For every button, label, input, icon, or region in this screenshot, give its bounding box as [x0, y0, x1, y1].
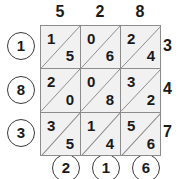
- right-label-row-2: 7: [163, 122, 185, 142]
- lattice-cell-r0c2-tens: 2: [127, 31, 135, 46]
- lattice-cell-r1c2: 3 2: [121, 69, 161, 112]
- lattice-cell-r0c2: 2 4: [121, 26, 161, 69]
- lattice-grid: 1 5 0 6 2 4 2 0: [40, 25, 161, 156]
- lattice-cell-r2c2: 5 6: [121, 113, 161, 156]
- lattice-multiplication-figure: 5 2 8 1 8 3 3 4 7 2 1 6 1 5 0 6: [0, 0, 193, 179]
- lattice-cell-r2c1: 1 4: [81, 113, 121, 156]
- lattice-cell-r1c1: 0 8: [81, 69, 121, 112]
- top-label-col-0: 5: [40, 2, 80, 22]
- right-label-row-1: 4: [163, 79, 185, 99]
- bottom-circle-col-1: 1: [92, 154, 120, 179]
- bottom-circle-col-0: 2: [52, 154, 80, 179]
- lattice-cell-r1c0: 2 0: [41, 69, 81, 112]
- lattice-cell-r2c2-ones: 6: [147, 136, 155, 151]
- lattice-cell-r2c0: 3 5: [41, 113, 81, 156]
- lattice-cell-r2c1-ones: 4: [106, 136, 114, 151]
- lattice-cell-r1c1-ones: 8: [106, 92, 114, 107]
- lattice-cell-r0c2-ones: 4: [147, 48, 155, 63]
- lattice-cell-r0c1-tens: 0: [87, 31, 95, 46]
- left-circle-row-0: 1: [7, 32, 35, 60]
- lattice-cell-r2c0-tens: 3: [47, 118, 55, 133]
- lattice-cell-r2c2-tens: 5: [127, 118, 135, 133]
- left-circle-row-2: 3: [7, 119, 35, 147]
- lattice-cell-r0c1-ones: 6: [106, 48, 114, 63]
- lattice-cell-r0c0: 1 5: [41, 26, 81, 69]
- left-circle-row-1: 8: [7, 76, 35, 104]
- top-label-col-1: 2: [80, 2, 120, 22]
- lattice-cell-r1c1-tens: 0: [87, 74, 95, 89]
- lattice-cell-r0c0-tens: 1: [47, 31, 55, 46]
- lattice-cell-r1c0-ones: 0: [66, 92, 74, 107]
- lattice-cell-r0c1: 0 6: [81, 26, 121, 69]
- bottom-circle-col-2: 6: [132, 154, 160, 179]
- right-label-row-0: 3: [163, 36, 185, 56]
- top-label-col-2: 8: [120, 2, 160, 22]
- lattice-cell-r1c2-tens: 3: [127, 74, 135, 89]
- lattice-cell-r2c0-ones: 5: [66, 136, 74, 151]
- lattice-cell-r1c0-tens: 2: [47, 74, 55, 89]
- lattice-cell-r1c2-ones: 2: [147, 92, 155, 107]
- lattice-cell-r0c0-ones: 5: [66, 48, 74, 63]
- lattice-cell-r2c1-tens: 1: [87, 118, 95, 133]
